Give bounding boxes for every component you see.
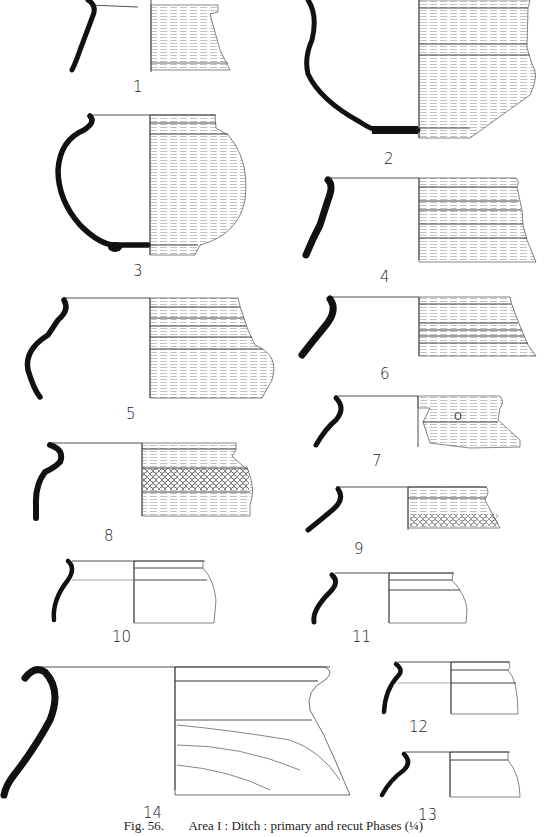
figure-number: Fig. 56. [124, 818, 164, 833]
vessel-9-drawing [308, 487, 500, 530]
vessel-5-drawing [27, 298, 274, 398]
vessel-7-drawing [316, 396, 520, 448]
vessel-label-2: 2 [384, 150, 394, 168]
vessel-label-8: 8 [104, 527, 114, 545]
vessel-11-drawing [314, 573, 467, 623]
vessel-label-7: 7 [372, 452, 382, 470]
vessel-label-12: 12 [409, 718, 428, 736]
vessel-label-1: 1 [133, 78, 143, 96]
vessel-14-drawing [4, 667, 350, 795]
vessel-label-10: 10 [112, 628, 131, 646]
vessel-3-drawing [58, 115, 246, 255]
vessel-label-11: 11 [352, 628, 371, 646]
vessel-label-9: 9 [354, 540, 364, 558]
vessel-label-3: 3 [133, 262, 143, 280]
vessel-label-5: 5 [126, 405, 136, 423]
vessel-6-drawing [302, 297, 536, 356]
vessel-1-drawing [72, 0, 230, 72]
vessel-4-drawing [306, 178, 536, 262]
vessel-2-drawing [307, 0, 536, 138]
figure-caption: Fig. 56. Area I : Ditch : primary and re… [0, 818, 547, 834]
pottery-drawings [0, 0, 547, 837]
vessel-10-drawing [54, 561, 216, 623]
figure-caption-text: Area I : Ditch : primary and recut Phase… [188, 818, 423, 833]
vessel-label-6: 6 [380, 365, 390, 383]
vessel-13-drawing [382, 752, 520, 797]
vessel-12-drawing [384, 662, 518, 714]
vessel-label-4: 4 [380, 268, 390, 286]
vessel-8-drawing [36, 443, 253, 518]
